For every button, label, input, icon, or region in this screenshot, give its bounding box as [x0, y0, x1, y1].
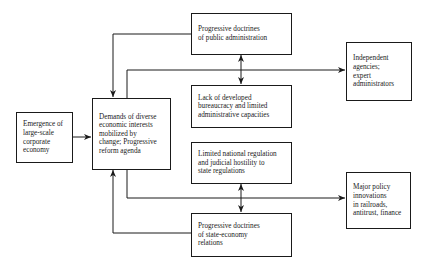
- node-prog-state-economy-label: Progressive doctrines of state-economy r…: [198, 222, 260, 248]
- node-emergence: Emergence of large-scale corporate econo…: [16, 112, 73, 163]
- node-prog-public-admin-label: Progressive doctrines of public administ…: [198, 25, 267, 42]
- node-emergence-label: Emergence of large-scale corporate econo…: [23, 120, 63, 154]
- node-prog-state-economy: Progressive doctrines of state-economy r…: [191, 213, 292, 257]
- edge-state-economy-demands: [113, 170, 191, 233]
- node-prog-public-admin: Progressive doctrines of public administ…: [191, 13, 292, 55]
- node-limited-regulation: Limited national regulation and judicial…: [191, 142, 292, 184]
- node-major-policy-label: Major policy innovations in railroads, a…: [353, 183, 401, 217]
- node-independent-agencies: Independent agencies; expert administrat…: [346, 42, 412, 101]
- node-demands-label: Demands of diverse economic interests mo…: [99, 113, 157, 156]
- node-independent-agencies-label: Independent agencies; expert administrat…: [353, 54, 394, 88]
- node-lack-bureaucracy: Lack of developed bureaucracy and limite…: [191, 85, 292, 128]
- node-demands: Demands of diverse economic interests mo…: [92, 98, 171, 170]
- node-lack-bureaucracy-label: Lack of developed bureaucracy and limite…: [198, 94, 269, 120]
- edge-public-admin-demands: [113, 34, 191, 97]
- node-limited-regulation-label: Limited national regulation and judicial…: [198, 150, 277, 176]
- node-major-policy: Major policy innovations in railroads, a…: [346, 172, 411, 229]
